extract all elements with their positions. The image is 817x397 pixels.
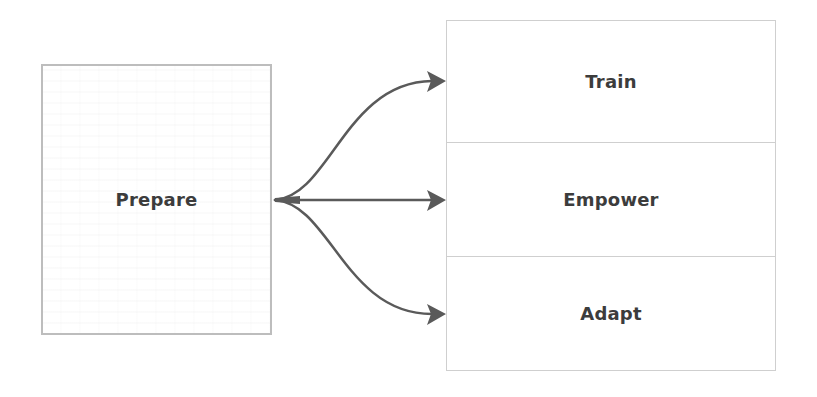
adapt-label: Adapt: [580, 303, 641, 324]
arrowhead-adapt-icon: [427, 304, 446, 325]
arrowhead-train-icon: [427, 71, 446, 92]
train-box: Train: [447, 21, 775, 143]
train-label: Train: [585, 71, 636, 92]
prepare-label: Prepare: [116, 189, 198, 210]
prepare-box: Prepare: [41, 64, 272, 335]
arrowhead-empower-icon: [427, 190, 446, 211]
empower-label: Empower: [563, 189, 658, 210]
target-stack: Train Empower Adapt: [446, 20, 776, 371]
arrow-origin-junction: [275, 196, 300, 204]
arrow-to-train: [275, 81, 432, 200]
arrow-to-adapt: [275, 200, 432, 314]
adapt-box: Adapt: [447, 257, 775, 370]
empower-box: Empower: [447, 143, 775, 257]
